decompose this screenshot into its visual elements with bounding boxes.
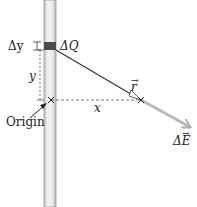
- r-vector-arrow-accent: →: [131, 75, 139, 85]
- label-x: x: [94, 101, 101, 115]
- e-vector-arrow-accent: →: [182, 128, 190, 138]
- delta-e-arrow: [141, 100, 190, 127]
- diagram-svg: Δy ΔQ y x r → Origin ΔE →: [0, 0, 197, 207]
- charge-segment: [44, 42, 56, 50]
- r-vector-line: [56, 50, 141, 100]
- label-delta-y: Δy: [8, 39, 24, 53]
- electric-field-diagram: Δy ΔQ y x r → Origin ΔE →: [0, 0, 197, 207]
- label-y: y: [28, 69, 36, 83]
- label-delta-q: ΔQ: [59, 39, 79, 53]
- delta-y-bracket: [33, 42, 41, 50]
- label-origin: Origin: [6, 115, 45, 129]
